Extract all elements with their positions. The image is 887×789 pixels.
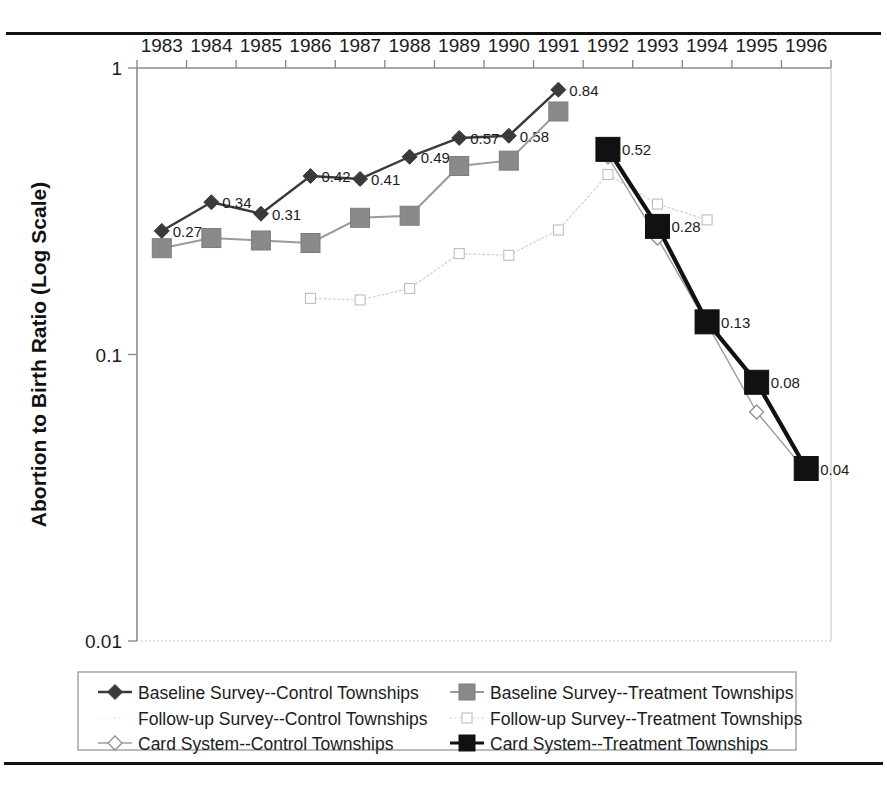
marker-filled-square-black xyxy=(695,310,719,334)
x-tick-label-1988: 1988 xyxy=(389,35,431,56)
x-tick-label-1984: 1984 xyxy=(190,35,233,56)
marker-open-square xyxy=(306,293,316,303)
legend-label-5: Card System--Control Townships xyxy=(138,734,394,754)
marker-filled-square xyxy=(499,151,518,170)
data-label-0.31: 0.31 xyxy=(272,206,301,223)
marker-filled-square-black xyxy=(794,457,818,481)
x-tick-label-1993: 1993 xyxy=(636,35,678,56)
y-tick-label-1: 1 xyxy=(111,58,122,79)
marker-filled-diamond xyxy=(402,149,417,164)
marker-filled-diamond xyxy=(452,130,467,145)
y-tick-label-0.01: 0.01 xyxy=(85,631,122,652)
data-label-0.27: 0.27 xyxy=(173,223,202,240)
marker-open-square xyxy=(454,249,464,259)
marker-filled-square-black xyxy=(745,370,769,394)
legend-label-1: Baseline Survey--Control Townships xyxy=(138,683,419,703)
marker-filled-square xyxy=(351,208,370,227)
marker-filled-square xyxy=(152,239,171,258)
legend-item-2[interactable]: Baseline Survey--Treatment Townships xyxy=(450,683,794,703)
marker-open-square xyxy=(462,713,472,723)
marker-filled-square xyxy=(301,234,320,253)
marker-open-square xyxy=(355,295,365,305)
series-group: 0.270.340.310.420.410.490.570.580.840.52… xyxy=(152,82,849,481)
x-tick-label-1989: 1989 xyxy=(438,35,480,56)
marker-open-square xyxy=(603,169,613,179)
data-label-0.08: 0.08 xyxy=(771,374,800,391)
x-tick-label-1987: 1987 xyxy=(339,35,381,56)
legend-item-1[interactable]: Baseline Survey--Control Townships xyxy=(98,683,419,703)
marker-open-square xyxy=(653,199,663,209)
marker-filled-diamond xyxy=(353,171,368,186)
marker-filled-square-black xyxy=(596,137,620,161)
chart-canvas: 1983198419851986198719881989199019911992… xyxy=(0,0,887,789)
marker-open-square xyxy=(553,225,563,235)
x-tick-label-1985: 1985 xyxy=(240,35,282,56)
marker-filled-square xyxy=(459,684,475,700)
x-tick-label-1991: 1991 xyxy=(537,35,579,56)
marker-filled-square xyxy=(400,206,419,225)
x-tick-label-1994: 1994 xyxy=(686,35,729,56)
data-label-0.04: 0.04 xyxy=(820,461,849,478)
data-label-0.49: 0.49 xyxy=(421,149,450,166)
marker-filled-square xyxy=(450,156,469,175)
x-tick-label-1995: 1995 xyxy=(736,35,778,56)
legend-item-5[interactable]: Card System--Control Townships xyxy=(98,734,394,754)
series-6: 0.520.280.130.080.04 xyxy=(596,137,849,480)
y-axis-title: Abortion to Birth Ratio (Log Scale) xyxy=(27,182,50,527)
legend-label-3: Follow-up Survey--Control Townships xyxy=(138,709,428,729)
axes-group: 1983198419851986198719881989199019911992… xyxy=(27,35,831,652)
marker-open-square xyxy=(504,250,514,260)
series-line xyxy=(608,149,806,468)
x-tick-label-1990: 1990 xyxy=(488,35,530,56)
marker-open-square xyxy=(405,283,415,293)
legend-label-2: Baseline Survey--Treatment Townships xyxy=(490,683,794,703)
x-tick-label-1996: 1996 xyxy=(785,35,827,56)
legend-item-6[interactable]: Card System--Treatment Townships xyxy=(450,734,768,754)
data-label-0.13: 0.13 xyxy=(721,314,750,331)
data-label-0.34: 0.34 xyxy=(222,194,251,211)
x-tick-label-1983: 1983 xyxy=(141,35,183,56)
x-tick-label-1992: 1992 xyxy=(587,35,629,56)
legend-label-6: Card System--Treatment Townships xyxy=(490,734,768,754)
marker-filled-square-black xyxy=(646,214,670,238)
marker-filled-square-black xyxy=(459,735,475,751)
chart-figure: 1983198419851986198719881989199019911992… xyxy=(0,0,887,789)
marker-filled-diamond xyxy=(154,223,169,238)
marker-filled-diamond xyxy=(204,195,219,210)
data-label-0.57: 0.57 xyxy=(470,130,499,147)
y-tick-label-0.1: 0.1 xyxy=(96,345,122,366)
legend-label-4: Follow-up Survey--Treatment Townships xyxy=(490,709,802,729)
marker-dot xyxy=(114,717,116,719)
legend: Baseline Survey--Control TownshipsBaseli… xyxy=(78,672,802,754)
data-label-0.84: 0.84 xyxy=(569,82,598,99)
marker-filled-square xyxy=(251,231,270,250)
marker-open-square xyxy=(702,215,712,225)
data-label-0.41: 0.41 xyxy=(371,171,400,188)
data-label-0.52: 0.52 xyxy=(622,141,651,158)
x-tick-label-1986: 1986 xyxy=(289,35,331,56)
data-label-0.28: 0.28 xyxy=(672,218,701,235)
marker-filled-square xyxy=(202,229,221,248)
data-label-0.42: 0.42 xyxy=(322,168,351,185)
legend-item-3[interactable]: Follow-up Survey--Control Townships xyxy=(98,709,428,729)
marker-filled-square xyxy=(549,102,568,121)
legend-item-4[interactable]: Follow-up Survey--Treatment Townships xyxy=(450,709,802,729)
